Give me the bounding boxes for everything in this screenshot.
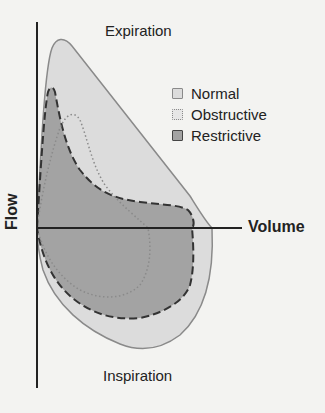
legend-label-restrictive: Restrictive: [191, 127, 261, 144]
legend-item-obstructive: Obstructive: [172, 104, 267, 125]
obstructive-swatch-icon: [172, 109, 183, 120]
flow-volume-diagram: [0, 0, 325, 413]
restrictive-swatch-icon: [172, 130, 183, 141]
legend-item-restrictive: Restrictive: [172, 125, 267, 146]
inspiration-label: Inspiration: [103, 367, 172, 384]
legend-label-normal: Normal: [191, 85, 239, 102]
y-axis-label: Flow: [3, 194, 21, 230]
legend-item-normal: Normal: [172, 83, 267, 104]
expiration-label: Expiration: [105, 22, 172, 39]
legend-label-obstructive: Obstructive: [191, 106, 267, 123]
normal-swatch-icon: [172, 88, 183, 99]
x-axis-label: Volume: [248, 218, 305, 236]
legend: Normal Obstructive Restrictive: [172, 83, 267, 146]
